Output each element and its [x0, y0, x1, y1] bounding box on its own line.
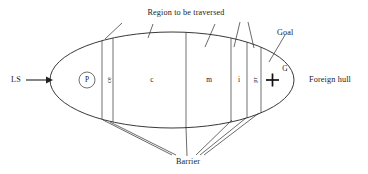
- leader-to-pr: [248, 22, 254, 48]
- barrier-label: Barrier: [176, 158, 200, 166]
- start-node-label: P: [85, 76, 89, 83]
- leader-to-m: [205, 24, 215, 47]
- leader-to-i: [234, 22, 240, 47]
- zone-label-pr: pr: [251, 77, 258, 83]
- zone-label-i: i: [238, 76, 240, 83]
- barrier-leader-6: [204, 113, 259, 155]
- goal-node-label: G: [282, 65, 287, 72]
- bottom-leader-lines: [103, 113, 259, 156]
- barrier-leader-1: [103, 120, 172, 155]
- figure-root: Region to be traversed Goal Barrier LS F…: [0, 0, 368, 174]
- top-title-label: Region to be traversed: [147, 9, 224, 17]
- arrow-right-icon: [26, 77, 53, 84]
- zone-label-m: m: [206, 76, 212, 83]
- goal-label: Goal: [277, 29, 294, 37]
- barrier-leader-3: [186, 127, 187, 156]
- leader-to-c: [148, 24, 153, 38]
- zone-label-ce: ce: [105, 77, 112, 83]
- zone-label-c: c: [150, 76, 153, 83]
- diagram-canvas: [0, 0, 368, 174]
- foreign-hull-label: Foreign hull: [309, 76, 351, 84]
- leader-to-goal: [269, 35, 285, 62]
- ls-label: LS: [11, 76, 21, 84]
- plus-marker-icon: [266, 74, 279, 87]
